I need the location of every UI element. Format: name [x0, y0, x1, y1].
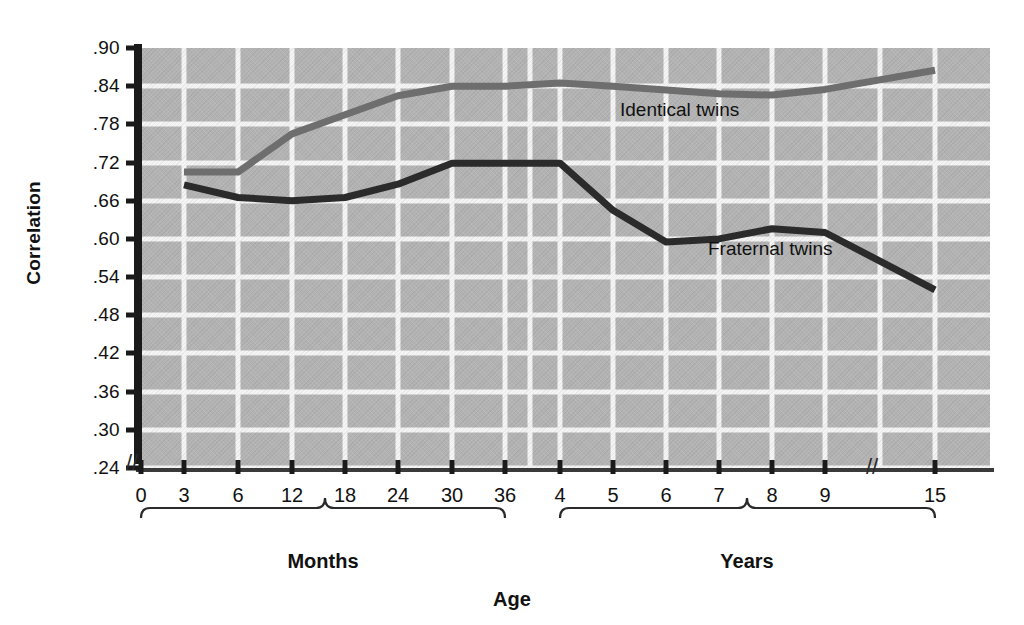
x-tick-mark [450, 460, 455, 474]
x-tick-label: 4 [530, 484, 590, 507]
y-tick-labels: .90.84.78.72.66.60.54.48.42.36.30.24 [58, 0, 120, 625]
horizontal-gridline [142, 389, 990, 394]
axis-break-mark: // [866, 456, 878, 478]
vertical-gridline [343, 48, 348, 468]
x-tick-mark [664, 460, 669, 474]
horizontal-gridline [142, 198, 990, 203]
x-tick-label: 9 [795, 484, 855, 507]
vertical-gridline [450, 48, 455, 468]
horizontal-gridline [142, 351, 990, 356]
fraternal-twins-label: Fraternal twins [708, 238, 833, 260]
y-tick-label: .54 [60, 266, 120, 288]
x-tick-mark [182, 460, 187, 474]
x-tick-label: 15 [905, 484, 965, 507]
vertical-gridline [878, 48, 883, 468]
x-tick-mark [290, 460, 295, 474]
axis-break-mark: // [126, 452, 138, 474]
identical-twins-label: Identical twins [620, 99, 739, 121]
x-tick-label: 24 [368, 484, 428, 507]
x-tick-label: 3 [154, 484, 214, 507]
y-tick-mark [126, 389, 142, 394]
vertical-gridline [503, 48, 508, 468]
y-axis-spine [134, 44, 142, 464]
horizontal-gridline [142, 122, 990, 127]
y-tick-mark [126, 46, 142, 51]
horizontal-gridline [142, 236, 990, 241]
y-tick-mark [126, 351, 142, 356]
y-tick-label: .78 [60, 113, 120, 135]
y-tick-label: .84 [60, 75, 120, 97]
years-group-label: Years [637, 550, 857, 573]
vertical-gridline [558, 48, 563, 468]
y-tick-label: .24 [60, 457, 120, 479]
y-tick-mark [126, 275, 142, 280]
x-tick-label: 36 [475, 484, 535, 507]
y-tick-mark [126, 160, 142, 165]
vertical-gridline [611, 48, 616, 468]
x-tick-mark [611, 460, 616, 474]
x-tick-label: 7 [689, 484, 749, 507]
y-tick-mark [126, 198, 142, 203]
x-tick-mark [823, 460, 828, 474]
y-tick-label: .42 [60, 342, 120, 364]
x-tick-mark [558, 460, 563, 474]
horizontal-gridline [142, 84, 990, 89]
y-tick-label: .72 [60, 152, 120, 174]
vertical-gridline [182, 48, 187, 468]
y-tick-mark [126, 236, 142, 241]
x-tick-mark [503, 460, 508, 474]
vertical-gridline [396, 48, 401, 468]
x-tick-label: 8 [742, 484, 802, 507]
x-tick-label: 6 [208, 484, 268, 507]
x-tick-mark [933, 460, 938, 474]
vertical-gridline [933, 48, 938, 468]
vertical-gridline [528, 48, 533, 468]
vertical-gridline [290, 48, 295, 468]
y-tick-mark [126, 313, 142, 318]
horizontal-gridline [142, 313, 990, 318]
x-tick-label: 12 [262, 484, 322, 507]
y-tick-label: .60 [60, 228, 120, 250]
y-tick-mark [126, 427, 142, 432]
x-tick-mark [139, 460, 144, 474]
horizontal-gridline [142, 275, 990, 280]
x-tick-label: 18 [315, 484, 375, 507]
x-tick-mark [770, 460, 775, 474]
months-group-label: Months [213, 550, 433, 573]
x-tick-label: 30 [422, 484, 482, 507]
y-tick-mark [126, 84, 142, 89]
y-tick-mark [126, 122, 142, 127]
y-tick-label: .66 [60, 190, 120, 212]
x-tick-mark [396, 460, 401, 474]
y-axis-title: Correlation [23, 153, 45, 313]
y-tick-label: .48 [60, 304, 120, 326]
horizontal-gridline [142, 160, 990, 165]
x-tick-mark [717, 460, 722, 474]
x-tick-label: 5 [583, 484, 643, 507]
x-tick-mark [343, 460, 348, 474]
vertical-gridline [236, 48, 241, 468]
x-tick-mark [236, 460, 241, 474]
chart-figure: Correlation .90.84.78.72.66.60.54.48.42.… [0, 0, 1024, 625]
x-axis-title: Age [0, 588, 1024, 611]
x-tick-label: 6 [636, 484, 696, 507]
horizontal-gridline [142, 427, 990, 432]
caption-remnant [180, 0, 880, 3]
y-tick-label: .90 [60, 37, 120, 59]
plot-area [142, 48, 990, 468]
y-tick-label: .36 [60, 381, 120, 403]
y-tick-label: .30 [60, 419, 120, 441]
